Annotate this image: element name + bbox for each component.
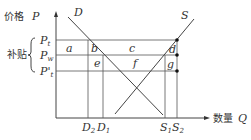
svg-text:P't: P't bbox=[39, 65, 53, 79]
y-axis-label-cn: 价格 bbox=[4, 10, 24, 22]
quantity-label-s1: S1 bbox=[160, 121, 172, 135]
y-axis-label-var: P bbox=[31, 10, 40, 23]
subsidy-label: 补贴 bbox=[7, 48, 27, 60]
area-c: c bbox=[129, 42, 135, 55]
area-d: d bbox=[169, 43, 176, 56]
svg-text:D1: D1 bbox=[96, 121, 110, 135]
price-label-pw: Pw bbox=[39, 49, 53, 63]
supply-label: S bbox=[181, 9, 189, 22]
quantity-label-d2: D2 bbox=[81, 121, 96, 135]
svg-text:D2: D2 bbox=[81, 121, 96, 135]
x-axis-label-cn: 数量 bbox=[213, 112, 233, 124]
quantity-label-s2: S2 bbox=[172, 121, 185, 135]
area-f: f bbox=[132, 57, 139, 70]
svg-text:S1: S1 bbox=[160, 121, 172, 135]
subsidy-diagram: 价格 P 数量 Q D S 补贴 Pt Pw P't D2 D1 S1 S2 a… bbox=[0, 0, 251, 140]
area-e: e bbox=[94, 57, 101, 70]
quantity-label-d1: D1 bbox=[96, 121, 110, 135]
price-label-pt-prime: P't bbox=[39, 65, 53, 79]
svg-text:S2: S2 bbox=[172, 121, 185, 135]
y-axis bbox=[54, 11, 58, 118]
svg-text:Pt: Pt bbox=[39, 34, 50, 48]
supply-curve bbox=[115, 19, 194, 114]
area-b: b bbox=[91, 42, 98, 55]
price-label-pt: Pt bbox=[39, 34, 50, 48]
subsidy-bracket bbox=[28, 38, 35, 72]
demand-label: D bbox=[73, 6, 83, 19]
area-g: g bbox=[167, 58, 174, 71]
x-axis bbox=[56, 116, 210, 120]
x-axis-label-var: Q bbox=[238, 112, 247, 125]
svg-text:Pw: Pw bbox=[39, 49, 53, 63]
area-a: a bbox=[66, 42, 73, 55]
demand-curve bbox=[68, 17, 163, 115]
